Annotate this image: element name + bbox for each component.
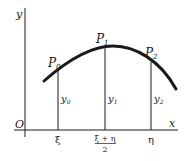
abscissa-label-eta: η — [148, 134, 154, 145]
point-label-p0: P0 — [47, 56, 61, 71]
diagram-canvas: y x O P0 P1 P2 y0 y1 y2 ξ ξ + η 2 η — [0, 0, 187, 161]
x-axis-label: x — [169, 117, 176, 130]
abscissa-label-mid-numerator: ξ + η — [95, 134, 116, 143]
y-axis-label: y — [15, 8, 23, 21]
abscissa-label-mid-denominator: 2 — [102, 145, 107, 154]
ordinate-label-y2: y2 — [153, 93, 164, 105]
ordinate-label-y0: y0 — [60, 93, 71, 105]
ordinate-label-y1: y1 — [107, 93, 117, 105]
abscissa-label-xi: ξ — [55, 134, 61, 145]
point-label-p1: P1 — [95, 32, 109, 47]
point-label-p2: P2 — [144, 46, 158, 61]
origin-label: O — [15, 118, 24, 131]
